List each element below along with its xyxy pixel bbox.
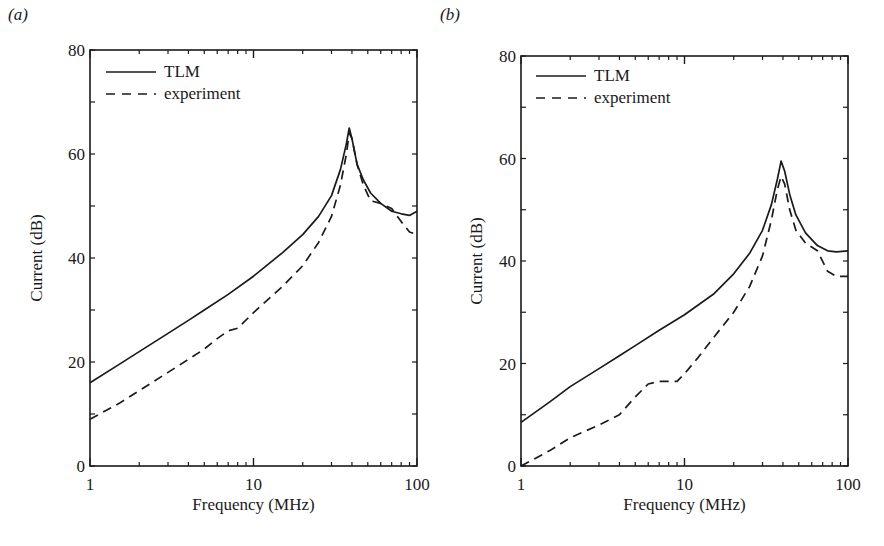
y-tick-label: 40 — [499, 252, 516, 271]
y-axis-title: Current (dB) — [467, 217, 486, 304]
panel-label: (a) — [8, 5, 28, 24]
x-axis-title: Frequency (MHz) — [192, 495, 314, 514]
legend-label: experiment — [164, 84, 241, 103]
chart-panel-b: (b)110100020406080Frequency (MHz)Current… — [440, 5, 861, 514]
legend: TLMexperiment — [106, 62, 241, 103]
figure: (a)110100020406080Frequency (MHz)Current… — [0, 0, 884, 546]
x-tick-label: 10 — [676, 475, 693, 494]
y-axis-ticks — [90, 50, 417, 466]
plot-frame — [90, 50, 417, 466]
series-tlm-line — [90, 128, 417, 383]
x-tick-label: 100 — [835, 475, 861, 494]
x-tick-label: 100 — [404, 475, 430, 494]
x-axis-ticks — [90, 50, 417, 466]
y-axis-title: Current (dB) — [27, 214, 46, 301]
y-tick-label: 20 — [499, 355, 516, 374]
legend-label: experiment — [594, 88, 671, 107]
y-tick-label: 60 — [68, 145, 85, 164]
y-tick-label: 80 — [499, 47, 516, 66]
x-axis-ticks — [521, 56, 848, 466]
y-tick-label: 40 — [68, 249, 85, 268]
x-tick-label: 10 — [245, 475, 262, 494]
chart-panel-a: (a)110100020406080Frequency (MHz)Current… — [8, 5, 430, 514]
y-tick-label: 0 — [508, 457, 517, 476]
legend: TLMexperiment — [536, 66, 671, 107]
series-tlm-line — [521, 161, 848, 422]
y-tick-label: 0 — [77, 457, 86, 476]
legend-label: TLM — [594, 66, 630, 85]
x-tick-label: 1 — [517, 475, 526, 494]
y-tick-label: 60 — [499, 150, 516, 169]
legend-label: TLM — [164, 62, 200, 81]
x-tick-label: 1 — [86, 475, 95, 494]
y-tick-label: 80 — [68, 41, 85, 60]
plot-frame — [521, 56, 848, 466]
y-tick-label: 20 — [68, 353, 85, 372]
x-axis-title: Frequency (MHz) — [623, 495, 745, 514]
panel-label: (b) — [440, 5, 460, 24]
y-axis-ticks — [521, 56, 848, 466]
